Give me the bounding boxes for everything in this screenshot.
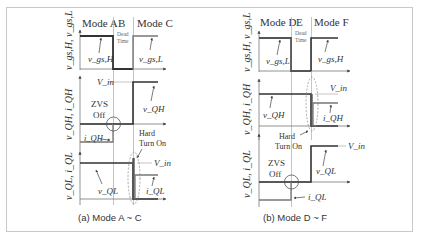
vgs-h-label-b: v_gs,H	[318, 54, 344, 64]
dead-time-label-1: Dead	[117, 31, 129, 37]
vin-label-b-low: V_in	[348, 141, 365, 151]
turn-on-label-b: Turn On	[275, 142, 302, 151]
hard-label-a: Hard	[139, 129, 155, 138]
iqh-label-a: i_QH	[84, 133, 104, 143]
mode-a-label: Mode A	[82, 17, 118, 29]
panel-a: Mode A B Mode C Dead Time v_gs,H, v_gs,L…	[63, 10, 173, 223]
axis-label-high-side-b: v_QH, i_QH	[241, 83, 252, 135]
vql-label-a: v_QL	[98, 186, 118, 196]
zvs-label-b: ZVS	[268, 158, 285, 168]
dead-time-label-2: Time	[117, 38, 129, 44]
panel-b: Mode D E Mode F Dead Time v_gs,H, v_gs,L…	[241, 12, 365, 223]
vgs-h-label: v_gs,H	[88, 54, 114, 64]
axis-label-gate: v_gs,H, v_gs,L	[63, 10, 74, 70]
vgs-l-label: v_gs,L	[139, 54, 163, 64]
vin-label-a-low: V_in	[154, 158, 171, 168]
mode-d-label: Mode D	[260, 16, 296, 28]
dead-time-label-b-2: Time	[295, 37, 307, 43]
dead-time-label-b-1: Dead	[295, 30, 307, 36]
caption-a: (a) Mode A ~ C	[78, 212, 142, 223]
mode-e-label: E	[296, 16, 303, 28]
vgs-l-waveform	[133, 36, 158, 69]
vql-label-b: v_QL	[316, 166, 336, 176]
vqh-label-b: v_QH	[263, 110, 285, 120]
waveform-diagram: Mode A B Mode C Dead Time v_gs,H, v_gs,L…	[0, 0, 421, 239]
vin-label-b: V_in	[330, 83, 347, 93]
axis-label-low-side-b: v_QL, i_QL	[241, 150, 252, 198]
mode-c-label: Mode C	[137, 17, 173, 29]
iql-label-b: i_QL	[308, 192, 327, 202]
mode-f-label: Mode F	[314, 16, 349, 28]
vin-label-a: V_in	[97, 77, 114, 87]
off-label-a: Off	[93, 110, 105, 120]
axis-label-high-side: v_QH, i_QH	[63, 88, 74, 140]
mode-b-label: B	[118, 17, 125, 29]
axis-label-gate-b: v_gs,H, v_gs,L	[241, 12, 252, 72]
vgs-l-label-b: v_gs,L	[266, 56, 290, 66]
caption-b: (b) Mode D ~ F	[263, 212, 327, 223]
zvs-label-a: ZVS	[91, 99, 108, 109]
iql-waveform-b	[259, 182, 291, 200]
iqh-label-b: i_QH	[323, 113, 344, 123]
iql-label-a: i_QL	[146, 186, 165, 196]
off-label-b: Off	[269, 169, 281, 179]
turn-on-label-a: Turn On	[139, 139, 166, 148]
axis-label-low-side: v_QL, i_QL	[63, 152, 74, 200]
vqh-label-a: v_QH	[143, 104, 165, 114]
hard-label-b: Hard	[279, 132, 295, 141]
